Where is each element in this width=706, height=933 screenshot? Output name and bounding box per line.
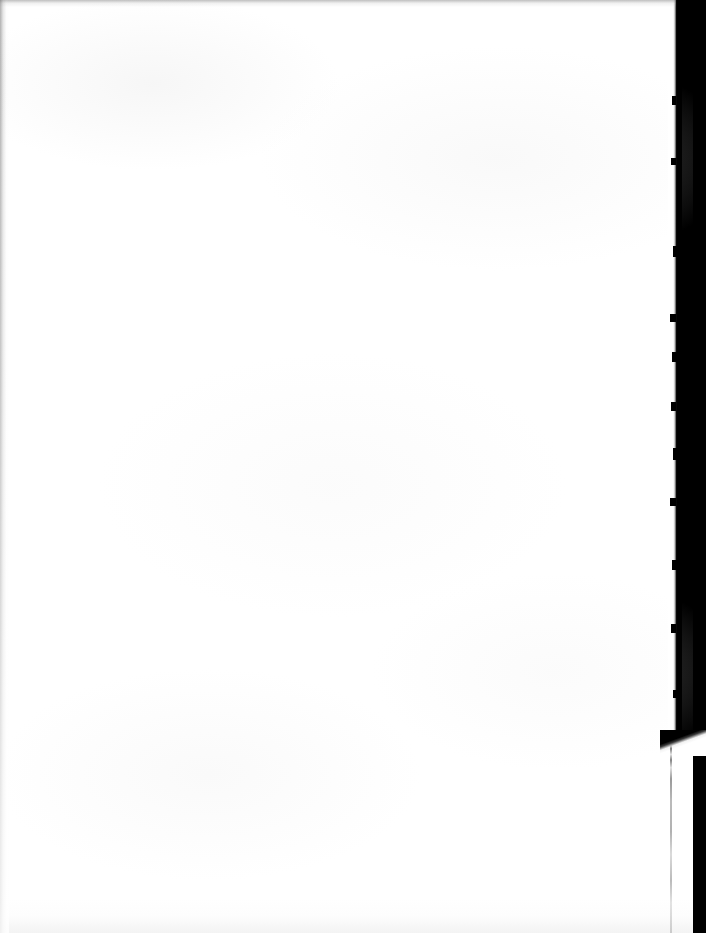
page-edge-nick: [673, 246, 677, 257]
page-edge-nick: [673, 690, 677, 698]
page-edge-nick: [671, 158, 676, 165]
bottom-edge-shadow: [0, 899, 693, 933]
top-edge-shadow: [0, 0, 676, 7]
page-edge-nick: [670, 498, 676, 506]
page-edge-nick: [670, 314, 676, 322]
page-edge-nick: [671, 402, 676, 411]
page-edge-nick: [673, 448, 677, 460]
page-edge-nick: [671, 624, 676, 633]
page-edge-nick: [672, 560, 677, 570]
page-edge-step-transition: [660, 730, 706, 756]
scanned-page-canvas: [0, 0, 706, 933]
page-edge-nick: [672, 352, 677, 362]
left-edge-shadow-fade: [0, 0, 9, 933]
page-body-text: [60, 170, 620, 870]
page-edge-nick: [672, 96, 676, 105]
